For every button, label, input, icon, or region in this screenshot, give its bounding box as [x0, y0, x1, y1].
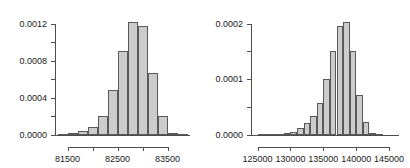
histogram-bar	[304, 123, 311, 135]
y-tick-label: 0.0012	[0, 20, 47, 29]
histogram-panel-left: 0.00000.00040.00080.0012 815008250083500	[0, 0, 205, 168]
y-tick-label: 0.0001	[205, 75, 243, 84]
histogram-bar	[323, 79, 330, 135]
histogram-bar	[58, 134, 68, 135]
histogram-bar	[68, 133, 78, 135]
y-tick-undefined	[51, 135, 55, 136]
histogram-bar	[363, 122, 370, 135]
x-tick	[356, 147, 357, 151]
y-tick-undefined	[247, 24, 251, 25]
y-tick-label: 0.0008	[0, 57, 47, 66]
histogram-bar	[277, 134, 284, 135]
histogram-bar	[168, 133, 178, 135]
x-tick	[68, 147, 69, 151]
x-minor-tick	[93, 147, 94, 151]
y-tick-label: 0.0000	[205, 131, 243, 140]
histogram-bar	[337, 26, 344, 135]
x-minor-tick	[143, 147, 144, 151]
histogram-bar	[284, 133, 291, 135]
x-tick-label: 145000	[359, 155, 410, 164]
plot-area-right: 0.00000.00010.0002 125000130000135000140…	[205, 0, 410, 168]
histogram-bar	[138, 26, 148, 135]
histogram-bar	[178, 134, 188, 135]
histogram-panel-right: 0.00000.00010.0002 125000130000135000140…	[205, 0, 410, 168]
y-minor-tick	[247, 107, 251, 108]
y-tick-undefined	[247, 135, 251, 136]
histogram-bar	[264, 134, 271, 135]
x-tick	[389, 147, 390, 151]
figure-canvas: 0.00000.00040.00080.0012 815008250083500…	[0, 0, 410, 168]
histogram-bar	[258, 134, 265, 135]
histogram-bar	[330, 51, 337, 135]
histogram-bar	[356, 95, 363, 135]
x-tick	[168, 147, 169, 151]
y-tick-undefined	[51, 98, 55, 99]
histogram-bar	[148, 73, 158, 135]
y-minor-tick	[51, 116, 55, 117]
histogram-bar	[118, 51, 128, 135]
x-tick-label: 83500	[138, 155, 198, 164]
histogram-bar	[158, 116, 168, 136]
y-minor-tick	[51, 42, 55, 43]
histogram-bar	[88, 127, 98, 135]
y-tick-undefined	[247, 79, 251, 80]
histogram-bar	[297, 128, 304, 135]
histogram-bar	[290, 132, 297, 135]
histogram-bar	[350, 51, 357, 135]
y-minor-tick	[247, 51, 251, 52]
histogram-bar	[310, 116, 317, 136]
histogram-bar	[98, 116, 108, 136]
histogram-bar	[317, 103, 324, 135]
x-tick	[290, 147, 291, 151]
histogram-bar	[108, 90, 118, 136]
histogram-bar	[271, 134, 278, 135]
plot-area-left: 0.00000.00040.00080.0012 815008250083500	[0, 0, 205, 168]
histogram-bar	[376, 134, 383, 135]
histogram-bar	[369, 133, 376, 135]
x-tick	[323, 147, 324, 151]
y-tick-label: 0.0002	[205, 20, 243, 29]
y-tick-label: 0.0004	[0, 94, 47, 103]
y-tick-undefined	[51, 24, 55, 25]
x-tick	[118, 147, 119, 151]
histogram-bar	[78, 131, 88, 135]
x-tick	[258, 147, 259, 151]
histogram-bar	[128, 22, 138, 135]
y-tick-undefined	[51, 61, 55, 62]
y-minor-tick	[51, 79, 55, 80]
histogram-bar	[343, 22, 350, 135]
y-tick-label: 0.0000	[0, 131, 47, 140]
